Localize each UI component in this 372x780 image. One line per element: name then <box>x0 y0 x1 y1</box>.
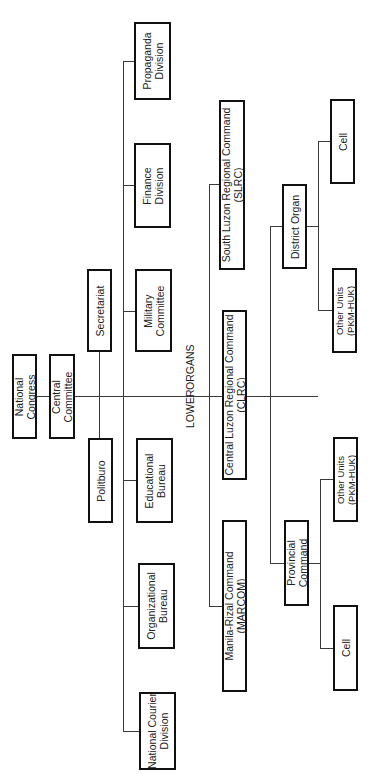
connector <box>209 184 219 185</box>
connector <box>270 563 284 564</box>
connector <box>320 479 321 648</box>
connector <box>123 61 134 62</box>
node-educational-bureau: EducationalBureau <box>136 438 173 523</box>
connector <box>123 185 134 186</box>
connector <box>318 141 319 310</box>
connector <box>318 141 330 142</box>
connector <box>270 226 282 227</box>
connector <box>320 648 333 649</box>
connector <box>123 311 135 312</box>
connector <box>209 184 210 606</box>
connector <box>123 606 138 607</box>
node-national-courier-division: National CourierDivision <box>139 692 176 770</box>
node-secretariat: Secretariat <box>87 269 112 352</box>
node-marcom: Manila-Rizal Command(MARCOM) <box>222 520 247 692</box>
connector <box>309 563 320 564</box>
node-organizational-bureau: OrganizationalBureau <box>138 563 175 649</box>
node-slrc: South Luzon Regional Command(SLRC) <box>219 100 245 270</box>
node-clrc: Central Luzon Regional Command(CLRC) <box>222 310 247 480</box>
connector <box>320 479 333 480</box>
node-politburo: Politburo <box>88 438 113 523</box>
node-provincial-command: ProvincialCommand <box>284 520 309 606</box>
node-finance-division: FinanceDivision <box>134 143 171 228</box>
connector <box>37 396 49 397</box>
connector <box>123 480 136 481</box>
node-propaganda-division: PropagandaDivision <box>134 22 171 100</box>
connector <box>318 310 332 311</box>
node-cell-provincial: Cell <box>333 605 358 691</box>
node-other-units-provincial: Other Units(PKM-HUK) <box>333 437 358 522</box>
lower-organs-label-word2: ORGANS <box>184 344 196 390</box>
connector <box>270 226 271 563</box>
connector <box>99 352 100 438</box>
connector <box>123 61 124 732</box>
node-national-congress: NationalCongress <box>12 354 37 439</box>
node-military-committee: MilitaryCommittee <box>135 269 172 352</box>
node-cell-district: Cell <box>330 99 355 184</box>
connector <box>209 606 222 607</box>
lower-organs-label-word1: LOWER <box>184 389 196 428</box>
connector <box>75 396 318 397</box>
node-central-committee: CentralCommittee <box>49 354 75 439</box>
node-other-units-district: Other Units(PKM-HUK) <box>332 268 357 353</box>
node-district-organ: District Organ <box>282 184 307 269</box>
connector <box>123 731 139 732</box>
